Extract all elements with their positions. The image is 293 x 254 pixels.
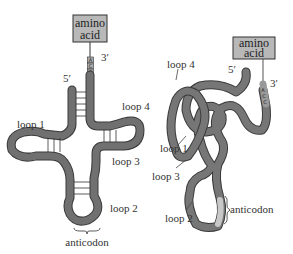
svg-text:C: C bbox=[263, 99, 267, 105]
trna-figure: amino acid A C C 3′ 5′ bbox=[0, 0, 293, 254]
amino-acid-box-right: amino acid bbox=[233, 36, 275, 84]
loop2-label-left: loop 2 bbox=[110, 202, 138, 214]
acid-label: acid bbox=[80, 28, 100, 42]
folded-diagram: amino acid 5′ 3′ A C C loop 4 loop 1 bbox=[152, 36, 278, 228]
anticodon-label-right: anticodon bbox=[230, 203, 274, 215]
loop3-label-left: loop 3 bbox=[112, 155, 140, 167]
loop1-label-left: loop 1 bbox=[17, 118, 45, 130]
five-prime-label-right: 5′ bbox=[228, 63, 236, 75]
acid-label-right: acid bbox=[244, 46, 264, 60]
loop2-label-right: loop 2 bbox=[165, 212, 193, 224]
anticodon-label-left: anticodon bbox=[65, 236, 109, 248]
loop1-label-right: loop 1 bbox=[160, 142, 188, 154]
loop4-label-left: loop 4 bbox=[122, 100, 150, 112]
loop3-label-right: loop 3 bbox=[152, 170, 180, 182]
five-prime-label-left: 5′ bbox=[63, 72, 71, 84]
three-prime-label-left: 3′ bbox=[101, 51, 109, 63]
three-prime-label-right: 3′ bbox=[270, 77, 278, 89]
cloverleaf-diagram: amino acid A C C 3′ 5′ bbox=[11, 15, 150, 248]
cloverleaf-strand bbox=[11, 75, 140, 221]
loop4-label-right: loop 4 bbox=[167, 58, 195, 70]
anticodon-brace-left bbox=[74, 228, 100, 234]
